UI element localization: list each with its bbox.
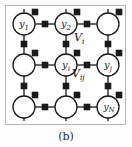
annotation-vij-symbol: V	[72, 67, 80, 80]
annotation-vi-sub: i	[82, 37, 84, 46]
variable-node-yN[interactable]	[97, 96, 119, 118]
figure-caption: (b)	[0, 130, 132, 143]
variable-node-r1c0[interactable]	[13, 54, 35, 76]
factor-square-h-r1c1[interactable]	[84, 62, 90, 68]
factor-square-v-c1r1[interactable]	[63, 83, 69, 89]
variable-node-r2c1[interactable]	[55, 96, 77, 118]
annotation-vij-sub: ij	[80, 73, 85, 82]
annotation-vi-symbol: V	[74, 31, 82, 44]
factor-graph-diagram	[0, 0, 132, 147]
unary-factor-r2c0[interactable]	[32, 92, 38, 98]
unary-factor-yN[interactable]	[116, 92, 122, 98]
factor-square-h-r2c0[interactable]	[42, 104, 48, 110]
factor-square-v-c0r0[interactable]	[21, 41, 27, 47]
unary-factor-yj[interactable]	[116, 50, 122, 56]
variable-node-r0c2[interactable]	[97, 13, 119, 35]
variable-node-y1[interactable]	[13, 13, 35, 35]
variable-node-yj[interactable]	[97, 54, 119, 76]
unary-factor-yi[interactable]	[74, 50, 80, 56]
factor-square-h-r1c0[interactable]	[42, 62, 48, 68]
factor-square-v-c1r0[interactable]	[63, 41, 69, 47]
unary-factor-y1[interactable]	[32, 9, 38, 15]
annotation-vij: Vij	[72, 67, 85, 82]
unary-factor-r2c1[interactable]	[74, 92, 80, 98]
annotation-vi: Vi	[74, 31, 84, 46]
figure-panel-b: y1 y2 yi yj yN Vi Vij (b)	[0, 0, 132, 147]
factor-square-h-r0c1[interactable]	[84, 21, 90, 27]
variable-node-r2c0[interactable]	[13, 96, 35, 118]
unary-factor-r1c0[interactable]	[32, 50, 38, 56]
factor-square-h-r0c0[interactable]	[42, 21, 48, 27]
unary-factor-r0c2[interactable]	[116, 9, 122, 15]
factor-square-h-r2c1[interactable]	[84, 104, 90, 110]
factor-square-v-c0r1[interactable]	[21, 83, 27, 89]
unary-factor-y2[interactable]	[74, 9, 80, 15]
variable-nodes	[13, 13, 119, 118]
factor-square-v-c2r0[interactable]	[105, 41, 111, 47]
factor-square-v-c2r1[interactable]	[105, 83, 111, 89]
